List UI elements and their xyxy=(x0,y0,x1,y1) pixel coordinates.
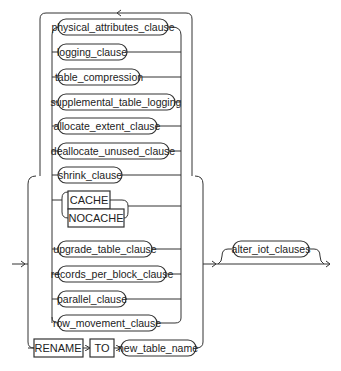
svg-text:supplemental_table_logging: supplemental_table_logging xyxy=(51,96,182,108)
item-row-movement-clause[interactable]: row_movement_clause xyxy=(53,315,161,331)
item-allocate-extent-clause[interactable]: allocate_extent_clause xyxy=(54,118,161,134)
svg-text:records_per_block_clause: records_per_block_clause xyxy=(51,268,174,280)
item-alter-iot-clauses[interactable]: alter_iot_clauses xyxy=(232,241,311,257)
cache-choice-group: CACHE NOCACHE xyxy=(52,191,181,227)
svg-text:row_movement_clause: row_movement_clause xyxy=(53,317,161,329)
rename-path: RENAME TO new_table_name xyxy=(28,339,198,357)
item-logging-clause[interactable]: logging_clause xyxy=(57,44,127,60)
svg-text:NOCACHE: NOCACHE xyxy=(68,212,123,224)
svg-text:logging_clause: logging_clause xyxy=(57,46,127,58)
svg-text:alter_iot_clauses: alter_iot_clauses xyxy=(232,243,311,255)
item-parallel-clause[interactable]: parallel_clause xyxy=(57,291,127,307)
svg-text:physical_attributes_clause: physical_attributes_clause xyxy=(51,21,174,33)
item-deallocate-unused-clause[interactable]: deallocate_unused_clause xyxy=(51,143,176,159)
keyword-cache[interactable]: CACHE xyxy=(68,191,110,209)
item-shrink-clause[interactable]: shrink_clause xyxy=(58,167,122,183)
item-upgrade-table-clause[interactable]: upgrade_table_clause xyxy=(53,241,156,257)
keyword-nocache[interactable]: NOCACHE xyxy=(68,209,124,227)
item-physical-attributes-clause[interactable]: physical_attributes_clause xyxy=(51,19,174,35)
svg-text:upgrade_table_clause: upgrade_table_clause xyxy=(53,243,156,255)
outer-left-rail xyxy=(28,176,36,348)
svg-text:new_table_name: new_table_name xyxy=(118,342,198,354)
keyword-rename[interactable]: RENAME xyxy=(34,339,83,357)
svg-text:allocate_extent_clause: allocate_extent_clause xyxy=(54,120,161,132)
svg-text:TO: TO xyxy=(94,342,110,354)
item-table-compression[interactable]: table_compression xyxy=(55,69,143,85)
svg-text:table_compression: table_compression xyxy=(55,71,143,83)
keyword-to[interactable]: TO xyxy=(90,339,114,357)
item-supplemental-table-logging[interactable]: supplemental_table_logging xyxy=(51,94,182,110)
outer-right-rail xyxy=(195,176,203,348)
svg-text:deallocate_unused_clause: deallocate_unused_clause xyxy=(51,145,176,157)
optional-alter-iot-group: alter_iot_clauses xyxy=(212,241,330,267)
svg-text:parallel_clause: parallel_clause xyxy=(57,293,127,305)
svg-text:CACHE: CACHE xyxy=(70,194,109,206)
svg-text:RENAME: RENAME xyxy=(34,342,81,354)
svg-text:shrink_clause: shrink_clause xyxy=(58,169,122,181)
syntax-diagram: physical_attributes_clause logging_claus… xyxy=(0,0,341,371)
item-records-per-block-clause[interactable]: records_per_block_clause xyxy=(51,266,174,282)
item-new-table-name[interactable]: new_table_name xyxy=(118,340,198,356)
